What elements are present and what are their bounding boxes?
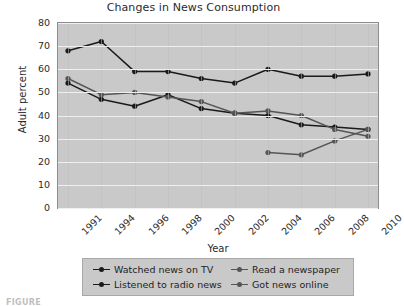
legend-marker-icon [231, 265, 248, 274]
y-tick-label: 0 [12, 202, 50, 213]
series-line [68, 42, 368, 84]
legend-marker-icon [93, 265, 110, 274]
legend-marker-icon [231, 280, 248, 289]
gridline-y [58, 139, 378, 140]
gridline-y [58, 92, 378, 93]
figure-caption: FIGURE [6, 298, 41, 306]
gridline-y [58, 162, 378, 163]
legend-marker-icon [93, 280, 110, 289]
x-axis-title: Year [57, 243, 379, 254]
y-tick-label: 10 [12, 178, 50, 189]
legend-item[interactable]: Read a newspaper [231, 264, 340, 275]
legend-item[interactable]: Listened to radio news [93, 279, 222, 290]
y-axis-title: Adult percent [17, 20, 28, 180]
chart-legend: Watched news on TVRead a newspaperListen… [82, 258, 354, 296]
legend-label: Watched news on TV [114, 264, 213, 275]
legend-label: Listened to radio news [114, 279, 222, 290]
gridline-y [58, 116, 378, 117]
legend-item[interactable]: Got news online [231, 279, 329, 290]
gridline-y [58, 208, 378, 209]
plot-area [57, 22, 379, 209]
series-line [68, 79, 368, 137]
series-line [68, 83, 368, 129]
legend-label: Got news online [252, 279, 329, 290]
legend-item[interactable]: Watched news on TV [93, 264, 213, 275]
gridline-y [58, 185, 378, 186]
legend-label: Read a newspaper [252, 264, 340, 275]
gridline-y [58, 69, 378, 70]
gridline-y [58, 46, 378, 47]
gridline-y [58, 23, 378, 24]
